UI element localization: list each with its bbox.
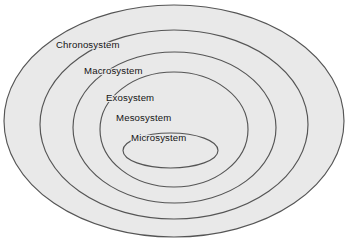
nested-ellipses-canvas: Chronosystem Macrosystem Exosystem Mesos… [0, 0, 347, 242]
ring-label-macrosystem: Macrosystem [84, 65, 143, 76]
ring-label-exosystem: Exosystem [106, 92, 154, 103]
ring-label-chronosystem: Chronosystem [56, 39, 120, 50]
ring-label-microsystem: Microsystem [131, 132, 186, 143]
ring-label-mesosystem: Mesosystem [116, 112, 171, 123]
ecological-systems-diagram: Chronosystem Macrosystem Exosystem Mesos… [0, 0, 347, 242]
ring-ellipse-mesosystem [100, 72, 248, 187]
